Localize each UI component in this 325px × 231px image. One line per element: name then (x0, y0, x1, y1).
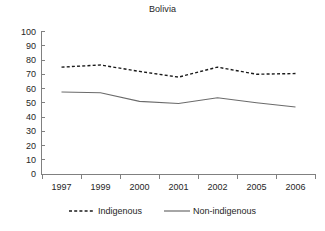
y-tick-label: 60 (26, 84, 36, 94)
x-tick-label: 2001 (168, 182, 188, 192)
y-tick-label: 70 (26, 69, 36, 79)
y-tick-label: 100 (21, 27, 36, 37)
plot-area: 1009080706050403020100 19971999200020012… (0, 0, 325, 231)
legend-swatch-solid-icon (164, 207, 190, 215)
x-tick-label: 2006 (285, 182, 305, 192)
legend-item-indigenous: Indigenous (69, 206, 142, 216)
y-tick-label: 0 (31, 169, 36, 179)
x-tick-label: 2002 (207, 182, 227, 192)
legend-swatch-dashed-icon (69, 207, 95, 215)
x-tick-label: 2005 (246, 182, 266, 192)
y-tick-label: 10 (26, 155, 36, 165)
chart-container: Bolivia 1009080706050403020100 199719992… (0, 0, 325, 231)
y-tick-label: 80 (26, 55, 36, 65)
legend-label-indigenous: Indigenous (98, 206, 142, 216)
x-tick-label: 1999 (90, 182, 110, 192)
y-tick-label: 30 (26, 126, 36, 136)
x-tick-label: 1997 (51, 182, 71, 192)
y-tick-label: 20 (26, 141, 36, 151)
y-tick-label: 50 (26, 98, 36, 108)
chart-legend: Indigenous Non-indigenous (0, 206, 325, 216)
series-line-non-indigenous (62, 92, 296, 107)
x-axis-tick-labels: 1997199920002001200220052006 (51, 182, 305, 192)
y-axis-tick-labels: 1009080706050403020100 (21, 27, 36, 180)
legend-label-non-indigenous: Non-indigenous (193, 206, 256, 216)
x-tick-label: 2000 (129, 182, 149, 192)
y-tick-label: 90 (26, 41, 36, 51)
y-tick-label: 40 (26, 112, 36, 122)
y-axis-ticks (42, 32, 46, 175)
data-series-group (62, 65, 296, 107)
legend-item-non-indigenous: Non-indigenous (164, 206, 256, 216)
series-line-indigenous (62, 65, 296, 77)
